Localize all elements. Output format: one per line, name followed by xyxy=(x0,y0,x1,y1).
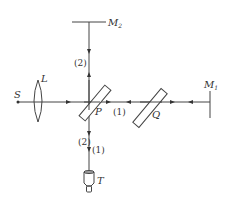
path2-label-upper: (2) xyxy=(74,58,87,68)
interferometer-diagram: M2 (2) S L P (1) Q M1 (2) (1) T xyxy=(0,0,228,198)
compensator-label: Q xyxy=(152,109,160,120)
compensator-plate-q xyxy=(133,89,167,128)
lens-label: L xyxy=(40,73,48,84)
arrow-left-icon xyxy=(126,100,131,104)
arrow-right-icon xyxy=(170,100,175,104)
detector-label: T xyxy=(97,175,105,186)
arrow-right-icon xyxy=(66,100,71,104)
detector-t xyxy=(84,171,94,193)
arrow-down-icon xyxy=(87,147,91,152)
lens xyxy=(34,80,42,122)
path2-label-lower: (2) xyxy=(78,137,91,147)
arrow-right-icon xyxy=(106,100,111,104)
path1-label-lower: (1) xyxy=(92,145,105,155)
mirror-m1-label: M1 xyxy=(203,79,218,91)
arrow-left-icon xyxy=(188,100,193,104)
arrow-down-icon xyxy=(87,131,91,136)
source-point xyxy=(17,101,20,104)
arrow-down-icon xyxy=(87,49,91,54)
source-label: S xyxy=(14,89,21,100)
path1-label: (1) xyxy=(113,107,126,117)
arrow-up-icon xyxy=(87,72,91,77)
beam-splitter-label: P xyxy=(94,106,102,117)
mirror-m2-label: M2 xyxy=(107,17,122,29)
